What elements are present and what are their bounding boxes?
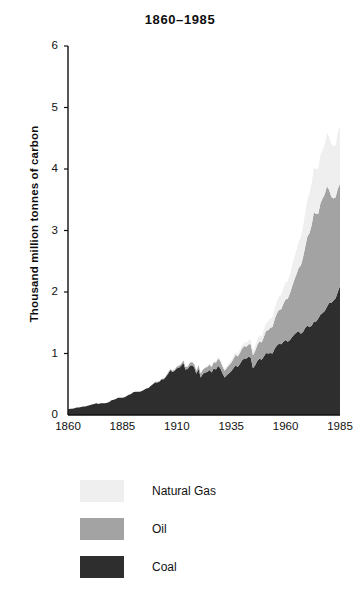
x-tick-label: 1885 — [99, 421, 145, 433]
x-tick-label: 1935 — [208, 421, 254, 433]
chart-legend: Natural GasOilCoal — [0, 478, 360, 606]
legend-item-coal: Coal — [80, 554, 177, 580]
legend-item-natural-gas: Natural Gas — [80, 478, 216, 504]
x-tick-label: 1960 — [263, 421, 309, 433]
x-axis-tick-labels: 186018851910193519601985 — [0, 419, 360, 443]
y-tick-label: 1 — [36, 348, 58, 360]
y-tick-label: 6 — [36, 40, 58, 52]
legend-swatch — [80, 556, 124, 578]
legend-item-oil: Oil — [80, 516, 167, 542]
x-tick-label: 1860 — [45, 421, 91, 433]
y-tick-label: 2 — [36, 286, 58, 298]
y-tick-label: 4 — [36, 163, 58, 175]
x-tick-label: 1910 — [154, 421, 200, 433]
chart-plot-area: Thousand million tonnes of carbon 012345… — [0, 0, 360, 470]
legend-swatch — [80, 518, 124, 540]
y-axis-tick-labels: 0123456 — [36, 0, 58, 470]
y-tick-label: 5 — [36, 102, 58, 114]
legend-label: Natural Gas — [152, 484, 216, 498]
legend-label: Coal — [152, 560, 177, 574]
legend-swatch — [80, 480, 124, 502]
x-tick-label: 1985 — [317, 421, 360, 433]
legend-label: Oil — [152, 522, 167, 536]
y-tick-label: 3 — [36, 225, 58, 237]
